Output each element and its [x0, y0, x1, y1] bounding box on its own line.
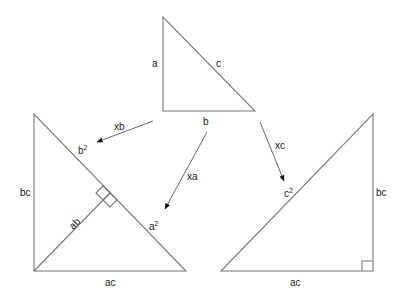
top-side-b-label: b [203, 116, 209, 127]
arrow-xa [165, 132, 207, 209]
left-side-bc-label: bc [20, 187, 31, 198]
right-triangle: bc ac c2 [221, 114, 387, 288]
arrow-xb [97, 121, 153, 142]
a-squared-label: a2 [149, 220, 159, 232]
altitude-ab-label: ab [67, 215, 83, 231]
left-bottom-ac-label: ac [105, 277, 116, 288]
top-side-a-label: a [152, 58, 158, 69]
altitude-line [34, 193, 110, 271]
b-squared-label: b2 [78, 144, 88, 156]
c-squared-label: c2 [284, 187, 293, 199]
arrow-xb-label: xb [114, 121, 125, 132]
top-side-c-label: c [216, 58, 221, 69]
right-side-bc-label: bc [376, 187, 387, 198]
arrow-xc-label: xc [275, 140, 285, 151]
right-angle-marker [362, 261, 373, 271]
right-bottom-ac-label: ac [290, 277, 301, 288]
right-angle-marker [96, 186, 110, 200]
arrow-xa-label: xa [187, 171, 198, 182]
similar-triangles-diagram: a c b xb xa xc bc ac ab b2 a2 bc ac c2 [0, 0, 404, 299]
top-triangle: a c b [152, 17, 255, 127]
scale-arrows: xb xa xc [97, 121, 285, 209]
arrow-xc [260, 122, 284, 181]
